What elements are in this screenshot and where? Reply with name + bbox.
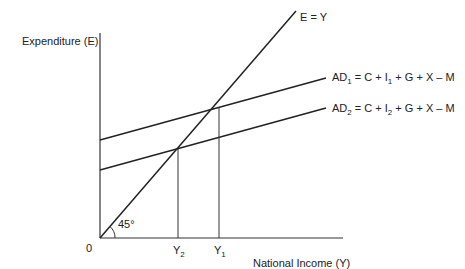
y-axis-label: Expenditure (E)	[22, 35, 98, 47]
e-equals-y-label: E = Y	[300, 11, 327, 23]
y1-tick-label: Y1	[214, 244, 226, 256]
ad1-label: AD1 = C + I1 + G + X – M	[332, 71, 455, 83]
ad2-line	[100, 108, 326, 170]
angle-label: 45°	[118, 218, 135, 230]
y2-tick-label: Y2	[173, 244, 185, 256]
ad2-label: AD2 = C + I2 + G + X – M	[332, 102, 455, 114]
ad1-line	[100, 78, 326, 140]
x-axis-label: National Income (Y)	[253, 257, 350, 269]
origin-label: 0	[86, 242, 92, 254]
angle-arc	[110, 227, 115, 239]
